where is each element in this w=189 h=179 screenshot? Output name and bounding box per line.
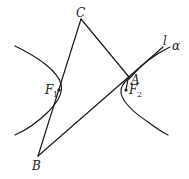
label-line-alpha: α — [172, 39, 180, 53]
label-F2-subscript: 2 — [137, 90, 142, 99]
label-C: C — [76, 6, 85, 20]
label-line-l: l — [163, 34, 167, 48]
diagram-svg: C B A F 1 F 2 l α — [0, 0, 189, 179]
hyperbola-diagram: C B A F 1 F 2 l α — [0, 0, 189, 179]
right-hyperbola-branch — [121, 78, 168, 135]
label-B: B — [31, 159, 41, 173]
label-F1-subscript: 1 — [53, 90, 58, 99]
segment-CA — [81, 19, 129, 77]
focus-F2-dot — [124, 88, 127, 91]
